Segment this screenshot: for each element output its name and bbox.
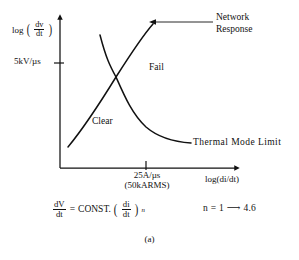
equation-constant: CONST. <box>78 204 111 215</box>
y-axis-label-fraction: dv dt <box>34 21 44 39</box>
exponent-range-note: n = 1 ⟶ 4.6 <box>203 203 256 214</box>
equation-lhs-fraction: dV dt <box>53 200 66 219</box>
equation-lhs-denominator: dt <box>53 210 66 219</box>
thermal-mode-limit-label: Thermal Mode Limit <box>193 137 281 148</box>
equation-paren-open-icon: ( <box>114 201 118 217</box>
equation-inner-denominator: dt <box>122 210 131 219</box>
equation-paren-close-icon: ) <box>135 201 139 217</box>
region-label-clear: Clear <box>92 116 113 127</box>
y-axis-label-prefix: log <box>12 25 24 35</box>
y-axis-tick-label: 5kV/µs <box>14 56 41 66</box>
region-label-fail: Fail <box>149 62 164 73</box>
x-axis-tick-label-group: 25A/µs (50kARMS) <box>107 170 187 191</box>
x-axis-label: log(di/dt) <box>205 174 239 184</box>
thermal-mode-limit-curve <box>100 35 191 143</box>
network-response-label-line1: Network <box>216 12 252 24</box>
plot-drawing <box>0 0 299 260</box>
paren-open-icon: ( <box>27 22 30 38</box>
figure-container: log ( dv dt ) 5kV/µs 25A/µs (50kARMS) lo… <box>0 0 299 260</box>
network-response-label-line2: Response <box>216 24 252 36</box>
paren-close-icon: ) <box>49 22 52 38</box>
equation: dV dt = CONST. ( di dt ) n <box>52 199 145 219</box>
network-response-curve <box>68 24 153 147</box>
equation-inner-fraction: di dt <box>122 200 131 219</box>
figure-caption: (a) <box>0 234 299 244</box>
equation-exponent: n <box>141 206 144 214</box>
equation-equals-sign: = <box>70 204 75 215</box>
y-axis-label-denominator: dt <box>34 30 44 38</box>
y-axis-label: log ( dv dt ) <box>12 21 52 39</box>
x-axis-tick-label-primary: 25A/µs <box>107 170 187 180</box>
network-response-label: Network Response <box>216 12 252 36</box>
x-axis-tick-label-secondary: (50kARMS) <box>107 180 187 190</box>
